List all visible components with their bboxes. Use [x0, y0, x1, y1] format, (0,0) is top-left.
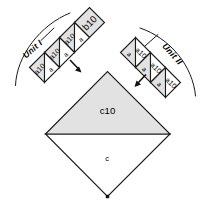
- unit-two-group: a a10 a a10 a a10 Unit II: [121, 28, 196, 98]
- unit-two-bracket-tick: [145, 35, 158, 47]
- unit-two-bracket-label: Unit II: [160, 41, 185, 67]
- center-c-label: c: [105, 154, 109, 163]
- center-square-group: c10 c: [46, 72, 171, 199]
- figure-container: b10 a10 a a10 a a10 a Unit I: [0, 0, 217, 213]
- center-bottom-vertex-marker: [106, 195, 109, 198]
- center-lower-triangle: [46, 134, 171, 197]
- center-c10-label: c10: [100, 105, 115, 116]
- geometry-diagram: b10 a10 a a10 a a10 a Unit I: [0, 0, 217, 213]
- unit-one-group: b10 a10 a a10 a a10 a Unit I: [16, 8, 105, 86]
